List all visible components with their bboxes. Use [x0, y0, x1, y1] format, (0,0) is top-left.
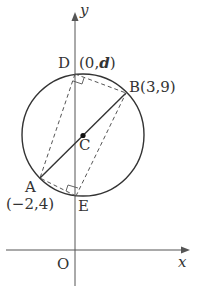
point-b-coord: (3,9)	[140, 78, 176, 96]
point-b-label: B(3,9)	[129, 80, 176, 95]
point-e-label: E	[78, 199, 89, 214]
point-d-coord-post: )	[110, 54, 116, 72]
y-axis-arrow-icon	[72, 12, 79, 21]
point-d-coord-var: d	[99, 54, 110, 72]
point-d-coord-pre: (0,	[79, 54, 99, 72]
x-axis-label: x	[178, 255, 186, 270]
point-a-label: A	[25, 180, 36, 195]
point-a-coord: (−2,4)	[6, 197, 54, 212]
diagram-canvas	[0, 0, 202, 286]
chord-da	[40, 74, 75, 178]
point-d-coord: (0,d)	[79, 56, 116, 71]
y-axis-label: y	[80, 3, 88, 18]
origin-label: O	[57, 257, 69, 272]
chord-ea	[40, 178, 76, 196]
coordinate-diagram: y x O D (0,d) B(3,9) C A (−2,4) E	[0, 0, 202, 286]
point-d-label: D	[58, 56, 70, 71]
point-c-label: C	[79, 138, 90, 153]
point-b-name: B	[129, 78, 140, 96]
right-angle-mark-e	[66, 185, 78, 191]
